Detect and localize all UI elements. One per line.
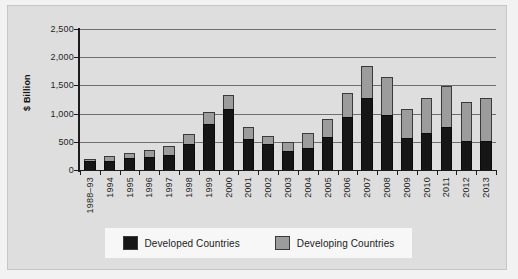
x-axis-tick-mark (338, 171, 339, 175)
x-axis-tick-label: 2013 (481, 177, 491, 198)
x-axis-tick-mark (496, 171, 497, 175)
bar-segment-developed[interactable] (84, 161, 95, 170)
x-axis-tick-mark (120, 171, 121, 175)
bar-segment-developed[interactable] (163, 155, 174, 170)
bar-segment-developed[interactable] (203, 124, 214, 170)
y-axis-tick-labels: 05001,0001,5002,0002,500 (8, 6, 74, 279)
legend-label: Developing Countries (297, 238, 395, 249)
bar-segment-developing[interactable] (441, 86, 452, 127)
x-axis-tick-label: 1994 (105, 177, 115, 198)
bar-segment-developing[interactable] (361, 66, 372, 99)
x-axis-tick-mark (258, 171, 259, 175)
bar-segment-developing[interactable] (381, 77, 392, 115)
bar-segment-developed[interactable] (381, 115, 392, 170)
bar-group[interactable] (163, 146, 174, 170)
bar-segment-developed[interactable] (441, 127, 452, 170)
bar-segment-developed[interactable] (124, 158, 135, 170)
bar-segment-developing[interactable] (203, 112, 214, 124)
bar-segment-developing[interactable] (342, 93, 353, 117)
bar-group[interactable] (243, 127, 254, 170)
bar-group[interactable] (421, 98, 432, 170)
chart-legend: Developed CountriesDeveloping Countries (105, 228, 412, 258)
x-axis-tick-mark (219, 171, 220, 175)
bar-segment-developed[interactable] (104, 161, 115, 170)
y-axis-tick-mark (74, 29, 78, 30)
legend-entry[interactable]: Developed Countries (123, 236, 240, 250)
x-axis-tick-label: 1999 (204, 177, 214, 198)
bar-group[interactable] (203, 112, 214, 170)
bar-group[interactable] (104, 156, 115, 170)
y-axis-tick-label: 2,000 (50, 52, 74, 62)
bar-segment-developing[interactable] (282, 142, 293, 151)
x-axis-tick-mark (100, 171, 101, 175)
legend-entry[interactable]: Developing Countries (275, 236, 395, 250)
bar-segment-developing[interactable] (262, 136, 273, 144)
bar-segment-developing[interactable] (144, 150, 155, 157)
bar-segment-developed[interactable] (480, 141, 491, 170)
y-axis-tick-mark (74, 170, 78, 171)
bar-group[interactable] (124, 153, 135, 170)
bar-group[interactable] (461, 102, 472, 170)
x-axis-line (78, 170, 497, 171)
bar-segment-developing[interactable] (322, 119, 333, 137)
bar-segment-developing[interactable] (401, 109, 412, 138)
bar-segment-developed[interactable] (183, 144, 194, 170)
bar-segment-developed[interactable] (243, 139, 254, 170)
bar-group[interactable] (223, 95, 234, 170)
x-axis-tick-label: 1998 (184, 177, 194, 198)
x-axis-tick-label: 2001 (243, 177, 253, 198)
bar-segment-developing[interactable] (243, 127, 254, 139)
black-swatch-icon (123, 236, 138, 250)
y-axis-tick-label: 1,500 (50, 80, 74, 90)
bar-group[interactable] (401, 109, 412, 170)
bar-group[interactable] (322, 119, 333, 170)
y-axis-tick-label: 2,500 (50, 24, 74, 34)
bar-group[interactable] (381, 77, 392, 170)
bar-segment-developed[interactable] (342, 117, 353, 170)
y-axis-tick-mark (74, 114, 78, 115)
bar-segment-developed[interactable] (461, 141, 472, 170)
bar-segment-developed[interactable] (262, 144, 273, 171)
bar-segment-developing[interactable] (421, 98, 432, 134)
bar-segment-developing[interactable] (461, 102, 472, 141)
bar-segment-developed[interactable] (223, 109, 234, 170)
bar-segment-developing[interactable] (223, 95, 234, 109)
x-axis-tick-mark (437, 171, 438, 175)
x-axis-tick-label: 2005 (323, 177, 333, 198)
bar-segment-developed[interactable] (401, 138, 412, 170)
x-axis-tick-label: 2008 (382, 177, 392, 198)
bar-segment-developed[interactable] (282, 151, 293, 170)
x-axis-tick-label: 1997 (164, 177, 174, 198)
x-axis-tick-mark (238, 171, 239, 175)
bar-segment-developed[interactable] (302, 148, 313, 170)
bar-group[interactable] (302, 133, 313, 170)
gray-swatch-icon (275, 236, 290, 250)
bar-group[interactable] (282, 142, 293, 170)
x-axis-tick-label: 2000 (224, 177, 234, 198)
bar-segment-developing[interactable] (302, 133, 313, 149)
bar-group[interactable] (183, 134, 194, 170)
bar-group[interactable] (144, 150, 155, 170)
bar-group[interactable] (342, 93, 353, 170)
bar-segment-developed[interactable] (421, 133, 432, 170)
bar-group[interactable] (480, 98, 491, 170)
bar-segment-developing[interactable] (183, 134, 194, 144)
x-axis-tick-mark (179, 171, 180, 175)
x-axis-tick-label: 2010 (422, 177, 432, 198)
bar-segment-developed[interactable] (322, 137, 333, 170)
x-axis-tick-label: 2011 (441, 177, 451, 197)
x-axis-tick-mark (397, 171, 398, 175)
bar-segment-developed[interactable] (144, 157, 155, 170)
bar-group[interactable] (262, 136, 273, 170)
x-axis-tick-label: 2006 (342, 177, 352, 198)
bar-segment-developing[interactable] (163, 146, 174, 155)
bar-segment-developing[interactable] (480, 98, 491, 141)
y-axis-tick-label: 500 (58, 137, 74, 147)
bar-group[interactable] (84, 159, 95, 170)
bar-group[interactable] (441, 86, 452, 170)
y-axis-tick-mark (74, 85, 78, 86)
bar-segment-developed[interactable] (361, 98, 372, 170)
x-axis-tick-mark (318, 171, 319, 175)
bar-series-container (80, 29, 496, 170)
bar-group[interactable] (361, 66, 372, 170)
